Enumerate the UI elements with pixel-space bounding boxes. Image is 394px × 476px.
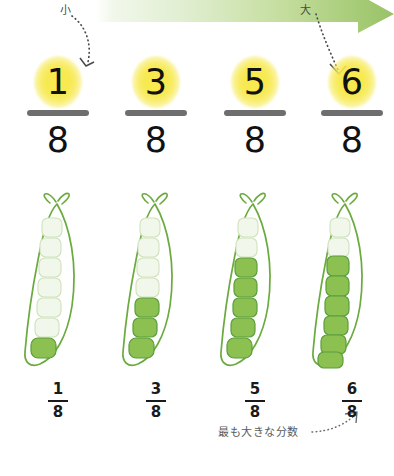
fraction-row-bottom: 1 8 3 8 5 8 6 8 bbox=[0, 382, 394, 432]
small-fraction-bar bbox=[245, 400, 265, 402]
small-fraction-4: 6 8 bbox=[303, 382, 394, 420]
fraction-bar bbox=[224, 110, 286, 116]
fraction-bar bbox=[321, 110, 383, 116]
numerator-value: 1 bbox=[47, 65, 69, 100]
denominator-value: 8 bbox=[145, 123, 167, 158]
fraction-bar bbox=[125, 110, 187, 116]
pea-seeds-filled bbox=[31, 338, 56, 358]
small-numerator: 3 bbox=[151, 382, 161, 397]
small-fraction-3: 5 8 bbox=[206, 382, 304, 420]
label-small-magnitude: 小 bbox=[60, 1, 71, 17]
label-large-magnitude: 大 bbox=[300, 1, 311, 17]
small-fraction-1: 1 8 bbox=[9, 382, 107, 420]
fraction-column-2[interactable]: 3 8 bbox=[107, 56, 205, 176]
pea-pod-row bbox=[0, 186, 394, 381]
small-fraction-bar bbox=[48, 400, 68, 402]
small-numerator: 6 bbox=[347, 382, 357, 397]
worksheet-canvas: 小 大 1 8 3 bbox=[0, 0, 394, 476]
small-fraction-2: 3 8 bbox=[107, 382, 205, 420]
fraction-row-top: 1 8 3 8 5 8 6 8 bbox=[0, 56, 394, 176]
largest-fraction-caption: 最も大きな分数 bbox=[218, 423, 299, 439]
small-fraction-bar bbox=[342, 400, 362, 402]
numerator-highlight-2: 3 bbox=[130, 56, 182, 108]
small-denominator: 8 bbox=[151, 405, 161, 420]
numerator-value: 3 bbox=[145, 65, 167, 100]
magnitude-banner-arrow bbox=[96, 0, 394, 33]
small-numerator: 1 bbox=[53, 382, 63, 397]
numerator-value: 6 bbox=[341, 65, 363, 100]
numerator-highlight-1: 1 bbox=[32, 56, 84, 108]
small-denominator: 8 bbox=[53, 405, 63, 420]
fraction-column-1[interactable]: 1 8 bbox=[9, 56, 107, 176]
numerator-highlight-3: 5 bbox=[229, 56, 281, 108]
numerator-value: 5 bbox=[244, 65, 266, 100]
denominator-value: 8 bbox=[244, 123, 266, 158]
small-numerator: 5 bbox=[250, 382, 260, 397]
fraction-column-3[interactable]: 5 8 bbox=[206, 56, 304, 176]
pea-pod-3 bbox=[208, 186, 308, 381]
small-denominator: 8 bbox=[347, 405, 357, 420]
denominator-value: 8 bbox=[47, 123, 69, 158]
pea-pod-4 bbox=[300, 186, 394, 381]
fraction-column-4[interactable]: 6 8 bbox=[303, 56, 394, 176]
small-denominator: 8 bbox=[250, 405, 260, 420]
fraction-bar bbox=[27, 110, 89, 116]
numerator-highlight-4: 6 bbox=[326, 56, 378, 108]
small-fraction-bar bbox=[146, 400, 166, 402]
denominator-value: 8 bbox=[341, 123, 363, 158]
pea-pod-1 bbox=[12, 186, 112, 381]
pea-pod-2 bbox=[110, 186, 210, 381]
